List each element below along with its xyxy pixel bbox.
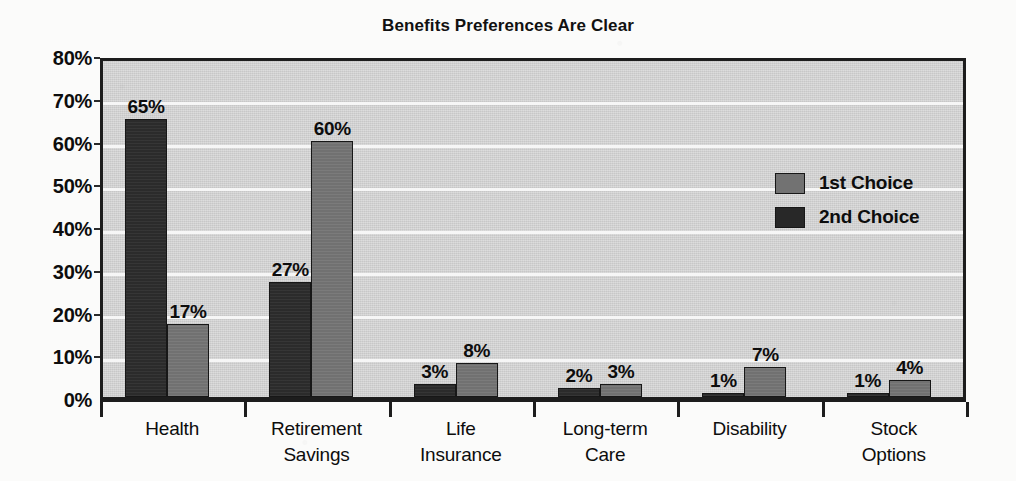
y-axis-tick-label: 30% (4, 260, 92, 283)
x-axis-category-label: RetirementSavings (244, 416, 388, 468)
bar-value-label: 17% (169, 301, 206, 323)
bar-value-label: 2% (566, 365, 593, 387)
bar[interactable]: 17% (167, 324, 209, 397)
legend-item[interactable]: 2nd Choice (775, 200, 966, 234)
x-axis-category-label-line: Long-term (533, 416, 677, 442)
legend-swatch-1st-choice (775, 173, 805, 194)
bar-value-label: 27% (272, 259, 309, 281)
x-axis-tick-mark (677, 402, 680, 417)
y-axis-tick-mark (94, 100, 100, 102)
y-axis-tick-label: 80% (4, 47, 92, 70)
bar[interactable]: 8% (456, 363, 498, 397)
x-axis-tick-mark (389, 402, 392, 417)
bar-value-label: 4% (896, 357, 923, 379)
bar-value-label: 3% (421, 361, 448, 383)
y-axis: 0%10%20%30%40%50%60%70%80% (0, 0, 92, 481)
y-axis-tick-label: 0% (4, 389, 92, 412)
x-axis-category-label-line: Disability (677, 416, 821, 442)
x-axis-category-label-line: Options (822, 442, 966, 468)
x-axis-category-label-line: Care (533, 442, 677, 468)
y-axis-tick-label: 50% (4, 175, 92, 198)
bar[interactable]: 3% (600, 384, 642, 397)
bar[interactable]: 65% (125, 119, 167, 397)
bar[interactable]: 2% (558, 388, 600, 397)
legend-item[interactable]: 1st Choice (775, 166, 966, 200)
bar[interactable]: 60% (311, 141, 353, 398)
chart-legend: 1st Choice 2nd Choice (775, 166, 966, 234)
x-axis-tick-mark (100, 402, 103, 417)
plot-area: 65%17%27%60%3%8%2%3%1%7%1%4% 1st Choice … (100, 58, 966, 400)
x-axis-category-label: Health (100, 416, 244, 442)
x-axis-category-label: StockOptions (822, 416, 966, 468)
x-axis-category-label-line: Retirement (244, 416, 388, 442)
y-axis-tick-label: 60% (4, 132, 92, 155)
bar-group: 27%60% (247, 61, 391, 397)
y-axis-tick-mark (94, 57, 100, 59)
chart-title: Benefits Preferences Are Clear (0, 16, 1016, 36)
y-axis-tick-mark (94, 228, 100, 230)
y-axis-tick-label: 20% (4, 303, 92, 326)
bar[interactable]: 7% (744, 367, 786, 397)
x-axis-category-label-line: Life (389, 416, 533, 442)
legend-label-1st-choice: 1st Choice (819, 172, 913, 194)
bar-group: 2%3% (536, 61, 680, 397)
y-axis-tick-label: 10% (4, 346, 92, 369)
x-axis-tick-mark (966, 402, 969, 417)
y-axis-tick-mark (94, 185, 100, 187)
bar-value-label: 7% (752, 344, 779, 366)
x-axis-category-label: Disability (677, 416, 821, 442)
x-axis-category-label-line: Savings (244, 442, 388, 468)
bar[interactable]: 4% (889, 380, 931, 397)
bar-value-label: 1% (710, 370, 737, 392)
bar-value-label: 1% (854, 370, 881, 392)
x-axis-category-label-line: Health (100, 416, 244, 442)
bar[interactable]: 3% (414, 384, 456, 397)
y-axis-tick-mark (94, 356, 100, 358)
x-axis-tick-mark (533, 402, 536, 417)
x-axis-tick-mark (822, 402, 825, 417)
y-axis-tick-label: 70% (4, 89, 92, 112)
bar[interactable]: 1% (702, 393, 744, 397)
y-axis-tick-mark (94, 314, 100, 316)
legend-label-2nd-choice: 2nd Choice (819, 206, 919, 228)
bar-group: 3%8% (392, 61, 536, 397)
x-axis-category-label-line: Insurance (389, 442, 533, 468)
bar-value-label: 65% (127, 96, 164, 118)
bar[interactable]: 1% (847, 393, 889, 397)
bar[interactable]: 27% (269, 282, 311, 397)
x-axis-tick-mark (244, 402, 247, 417)
bar-chart-figure: Benefits Preferences Are Clear 0%10%20%3… (0, 0, 1016, 481)
bar-value-label: 8% (463, 340, 490, 362)
x-axis-category-label: Long-termCare (533, 416, 677, 468)
legend-swatch-2nd-choice (775, 207, 805, 228)
y-axis-tick-mark (94, 143, 100, 145)
bar-value-label: 3% (608, 361, 635, 383)
y-axis-tick-label: 40% (4, 218, 92, 241)
x-axis-category-label: LifeInsurance (389, 416, 533, 468)
bar-group: 65%17% (103, 61, 247, 397)
bar-value-label: 60% (314, 118, 351, 140)
y-axis-tick-mark (94, 271, 100, 273)
x-axis-category-label-line: Stock (822, 416, 966, 442)
